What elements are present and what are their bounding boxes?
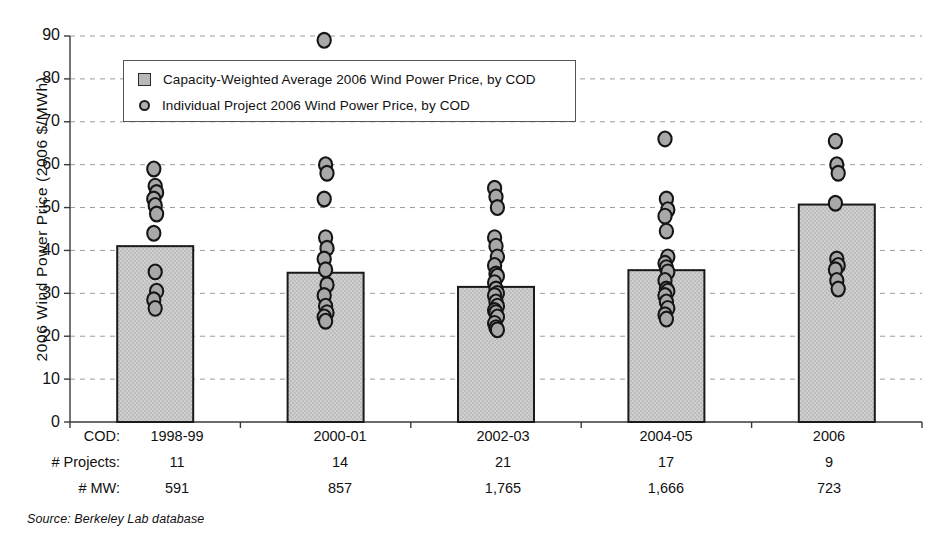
projects-cell-0: 11	[102, 454, 252, 470]
cod-cell-3: 2004-05	[591, 428, 741, 444]
projects-cell-2: 21	[428, 454, 578, 470]
bar-2006	[799, 205, 875, 422]
scatter-point	[660, 312, 673, 327]
legend-item-capacity-weighted-average: Capacity-Weighted Average 2006 Wind Powe…	[138, 68, 536, 90]
scatter-point	[147, 162, 160, 177]
scatter-point	[319, 262, 332, 277]
mw-cell-0: 591	[102, 480, 252, 496]
scatter-point	[658, 132, 671, 147]
scatter-point	[147, 226, 160, 241]
scatter-point	[832, 282, 845, 297]
mw-cell-2: 1,765	[428, 480, 578, 496]
scatter-point	[829, 196, 842, 211]
legend-square-icon	[138, 73, 151, 86]
legend-circle-icon	[139, 100, 150, 111]
mw-cell-1: 857	[265, 480, 415, 496]
scatter-point	[149, 301, 162, 316]
scatter-point	[320, 166, 333, 181]
cod-cell-2: 2002-03	[428, 428, 578, 444]
cod-cell-1: 2000-01	[265, 428, 415, 444]
source-note: Source: Berkeley Lab database	[27, 512, 204, 526]
mw-cell-4: 723	[754, 480, 904, 496]
scatter-point	[491, 200, 504, 215]
scatter-point	[491, 322, 504, 337]
projects-cell-3: 17	[591, 454, 741, 470]
legend-label-0: Capacity-Weighted Average 2006 Wind Powe…	[163, 72, 536, 87]
projects-cell-1: 14	[265, 454, 415, 470]
cod-cell-0: 1998-99	[102, 428, 252, 444]
projects-cell-4: 9	[754, 454, 904, 470]
scatter-point	[660, 224, 673, 239]
table-row-mw: # MW: 591 857 1,765 1,666 723	[0, 480, 939, 506]
scatter-point	[318, 192, 331, 207]
table-row-projects: # Projects: 11 14 21 17 9	[0, 454, 939, 480]
cod-cell-4: 2006	[754, 428, 904, 444]
scatter-point	[319, 314, 332, 329]
scatter-point	[832, 166, 845, 181]
scatter-point	[658, 209, 671, 224]
scatter-point	[318, 33, 331, 48]
scatter-point	[150, 207, 163, 222]
legend-item-individual-project: Individual Project 2006 Wind Power Price…	[138, 94, 470, 116]
table-row-cod: COD: 1998-99 2000-01 2002-03 2004-05 200…	[0, 428, 939, 454]
mw-cell-3: 1,666	[591, 480, 741, 496]
scatter-point	[829, 134, 842, 149]
legend-label-1: Individual Project 2006 Wind Power Price…	[162, 98, 470, 113]
legend: Capacity-Weighted Average 2006 Wind Powe…	[123, 60, 576, 122]
scatter-point	[149, 264, 162, 279]
wind-power-price-chart: 2006 Wind Power Price (2006 $/MWh) 90 80…	[0, 0, 939, 553]
category-stats-table: COD: 1998-99 2000-01 2002-03 2004-05 200…	[0, 428, 939, 506]
